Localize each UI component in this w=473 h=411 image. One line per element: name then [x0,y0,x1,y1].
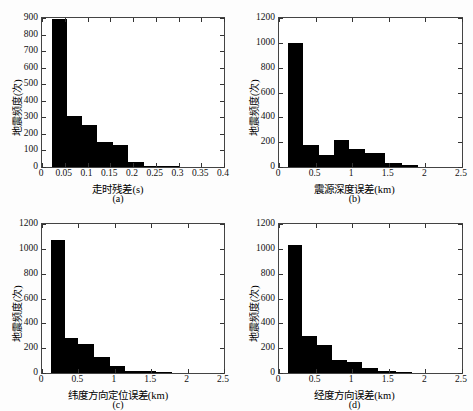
y-tick [279,142,283,143]
x-tick [352,369,353,373]
histogram-bar [317,345,332,373]
x-tick [224,224,225,228]
x-tick-label: 2 [422,374,427,384]
panel-c: 纬度方向定位误差(km) (c) 地震频度(次) 00.511.522.5020… [0,205,236,411]
x-tick [88,163,89,167]
histogram-bar [288,245,302,373]
y-tick-label: 200 [261,342,275,352]
y-tick-label: 800 [261,62,275,72]
y-tick-label: 100 [24,144,38,154]
x-tick [352,18,353,22]
panel-b: 震源深度误差(km) (b) 地震频度(次) 00.511.522.502004… [236,0,473,205]
y-tick-label: 800 [24,29,38,39]
x-tick [88,18,89,22]
x-tick [179,163,180,167]
x-tick-label: 1 [349,374,354,384]
y-tick [279,43,283,44]
plot-area-d [278,223,463,374]
histogram-bar [156,372,172,373]
histogram-bar [362,368,377,373]
y-tick [220,18,224,19]
histogram-bar [113,145,129,167]
y-axis-title-b: 地震频度(次) [246,79,261,136]
histogram-bar [52,19,67,167]
histogram-bar [378,371,396,373]
x-tick [110,18,111,22]
histogram-bar [144,166,178,167]
y-tick [42,348,46,349]
x-tick [151,224,152,228]
panel-a: 走时残差(s) (a) 地震频度(次) 00.050.10.150.20.250… [0,0,236,205]
x-tick [425,163,426,167]
y-tick [458,68,462,69]
x-tick [115,369,116,373]
x-tick [316,224,317,228]
y-tick [220,323,224,324]
x-tick [316,163,317,167]
y-tick-label: 800 [24,268,38,278]
bars-d [279,224,462,373]
x-tick [425,224,426,228]
y-tick-label: 400 [24,317,38,327]
y-tick [220,348,224,349]
histogram-bar [385,163,402,167]
y-tick [279,68,283,69]
histogram-bar [365,153,385,167]
x-tick [462,18,463,22]
x-tick-label: 1 [349,168,354,178]
x-tick [78,224,79,228]
panel-caption-c: (c) [0,399,236,410]
x-tick-label: 1.5 [382,374,394,384]
y-tick [42,249,46,250]
x-tick-label: 0.35 [192,168,209,178]
y-tick-label: 600 [261,293,275,303]
y-tick [220,134,224,135]
y-tick-label: 400 [261,317,275,327]
y-tick [220,224,224,225]
x-tick-label: 2.5 [455,374,467,384]
x-tick [156,18,157,22]
histogram-bar [332,360,347,373]
y-tick [42,35,46,36]
y-tick [279,323,283,324]
y-tick-label: 200 [24,128,38,138]
histogram-bar [347,362,362,373]
y-tick-label: 800 [261,268,275,278]
histogram-bar [128,162,144,167]
y-tick [42,117,46,118]
y-tick [42,18,46,19]
y-tick [42,150,46,151]
y-tick [220,274,224,275]
histogram-bar [94,357,109,373]
y-tick [458,224,462,225]
y-tick-label: 1000 [256,37,275,47]
x-tick-label: 0.5 [309,374,321,384]
x-tick-label: 1.5 [144,374,156,384]
panel-caption-b: (b) [236,193,473,204]
x-tick [110,163,111,167]
y-tick [220,249,224,250]
y-tick [220,84,224,85]
plot-area-c [41,223,225,374]
y-tick [458,323,462,324]
y-tick [220,299,224,300]
histogram-bar [78,344,94,373]
x-tick [462,369,463,373]
histogram-bar [140,371,155,373]
x-tick [352,224,353,228]
x-tick [224,18,225,22]
x-tick-label: 0.25 [146,168,163,178]
y-tick-label: 900 [24,12,38,22]
x-tick-label: 1.5 [382,168,394,178]
y-tick-label: 600 [24,62,38,72]
x-tick [201,163,202,167]
y-tick [42,274,46,275]
x-tick [224,369,225,373]
histogram-bar [396,372,412,373]
x-tick [462,163,463,167]
histogram-bar [65,338,79,373]
y-tick [279,93,283,94]
y-tick [220,117,224,118]
y-tick [220,35,224,36]
histogram-bar [302,336,317,373]
